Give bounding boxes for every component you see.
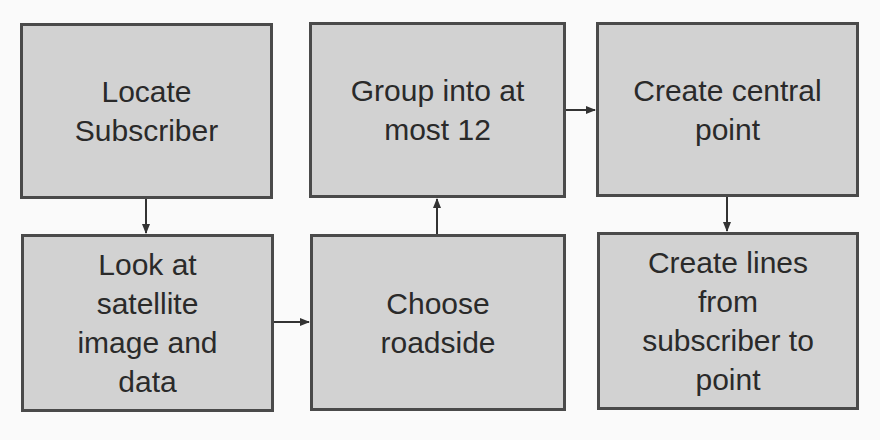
node-label: Look at satellite image and data bbox=[77, 245, 217, 401]
flowchart-canvas: Locate Subscriber Group into at most 12 … bbox=[0, 0, 880, 440]
node-locate-subscriber: Locate Subscriber bbox=[20, 23, 273, 199]
node-label: Create lines from subscriber to point bbox=[642, 243, 814, 399]
node-label: Locate Subscriber bbox=[75, 72, 218, 150]
node-label: Create central point bbox=[633, 71, 821, 149]
node-look-at-satellite-image: Look at satellite image and data bbox=[21, 234, 274, 412]
node-create-central-point: Create central point bbox=[596, 22, 859, 197]
node-group-into-at-most-12: Group into at most 12 bbox=[309, 22, 566, 198]
node-choose-roadside: Choose roadside bbox=[310, 234, 566, 411]
node-label: Choose roadside bbox=[380, 284, 495, 362]
node-label: Group into at most 12 bbox=[351, 71, 524, 149]
node-create-lines: Create lines from subscriber to point bbox=[597, 232, 859, 410]
